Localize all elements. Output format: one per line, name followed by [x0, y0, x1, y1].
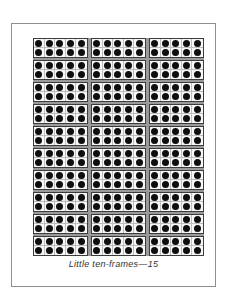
dot-icon	[114, 150, 121, 157]
ten-frame-cell	[161, 48, 172, 57]
dot-icon	[46, 216, 53, 223]
ten-frame-cell	[55, 224, 66, 233]
dot-icon	[56, 238, 63, 245]
dot-icon	[183, 159, 190, 166]
ten-frame-cell	[124, 39, 135, 48]
ten-frame-cell	[55, 180, 66, 189]
ten-frame-cell	[192, 180, 203, 189]
ten-frame-cell	[45, 105, 56, 114]
dot-icon	[78, 181, 85, 188]
ten-frame-cell	[34, 149, 45, 158]
dot-icon	[56, 194, 63, 201]
dot-icon	[67, 247, 74, 254]
dot-icon	[136, 181, 143, 188]
ten-frame-cell	[134, 70, 145, 79]
ten-frame-cell	[192, 114, 203, 123]
ten-frame-cell	[92, 202, 103, 211]
dot-icon	[172, 93, 179, 100]
dot-icon	[93, 84, 100, 91]
dot-icon	[35, 106, 42, 113]
dot-icon	[56, 203, 63, 210]
ten-frame-cell	[34, 136, 45, 145]
dot-icon	[194, 203, 201, 210]
ten-frame-cell	[150, 127, 161, 136]
dot-icon	[151, 159, 158, 166]
dot-icon	[125, 84, 132, 91]
dot-icon	[78, 115, 85, 122]
ten-frame-cell	[76, 48, 87, 57]
ten-frame-cell	[45, 193, 56, 202]
ten-frame-cell	[161, 105, 172, 114]
ten-frame-cell	[192, 70, 203, 79]
ten-frame-cell	[124, 92, 135, 101]
ten-frame-cell	[34, 193, 45, 202]
dot-icon	[114, 84, 121, 91]
ten-frame	[91, 38, 146, 58]
dot-icon	[35, 137, 42, 144]
dot-icon	[194, 106, 201, 113]
dot-icon	[194, 62, 201, 69]
dot-icon	[104, 247, 111, 254]
ten-frame	[33, 214, 88, 234]
ten-frame	[91, 236, 146, 256]
dot-icon	[56, 181, 63, 188]
dot-icon	[104, 225, 111, 232]
ten-frame-cell	[161, 61, 172, 70]
ten-frame	[91, 148, 146, 168]
ten-frame-cell	[171, 149, 182, 158]
ten-frame-cell	[124, 70, 135, 79]
dot-icon	[104, 106, 111, 113]
ten-frame-cell	[55, 149, 66, 158]
ten-frame-cell	[45, 92, 56, 101]
dot-icon	[194, 159, 201, 166]
dot-icon	[67, 216, 74, 223]
ten-frame-cell	[55, 105, 66, 114]
dot-icon	[125, 247, 132, 254]
ten-frame-cell	[192, 105, 203, 114]
dot-icon	[93, 203, 100, 210]
ten-frame-cell	[34, 246, 45, 255]
ten-frame-cell	[150, 149, 161, 158]
ten-frame-cell	[161, 158, 172, 167]
ten-frame-cell	[45, 171, 56, 180]
dot-icon	[93, 137, 100, 144]
ten-frame-cell	[76, 39, 87, 48]
dot-icon	[67, 106, 74, 113]
dot-icon	[104, 194, 111, 201]
dot-icon	[35, 49, 42, 56]
ten-frame-cell	[55, 136, 66, 145]
ten-frame-cell	[92, 114, 103, 123]
ten-frame-cell	[182, 61, 193, 70]
dot-icon	[162, 150, 169, 157]
dot-icon	[183, 62, 190, 69]
ten-frame-cell	[150, 105, 161, 114]
ten-frame-cell	[192, 127, 203, 136]
dot-icon	[56, 84, 63, 91]
ten-frame-cell	[124, 136, 135, 145]
dot-icon	[93, 172, 100, 179]
ten-frame-cell	[66, 48, 77, 57]
ten-frame-cell	[45, 237, 56, 246]
caption: Little ten-frames—15	[12, 259, 215, 269]
dot-icon	[35, 128, 42, 135]
dot-icon	[172, 159, 179, 166]
ten-frame-cell	[134, 180, 145, 189]
ten-frame-cell	[45, 202, 56, 211]
ten-frame-cell	[55, 70, 66, 79]
dot-icon	[194, 238, 201, 245]
ten-frame-cell	[150, 215, 161, 224]
ten-frame-cell	[182, 70, 193, 79]
ten-frame-cell	[55, 171, 66, 180]
ten-frame-cell	[76, 224, 87, 233]
ten-frame-cell	[124, 105, 135, 114]
dot-icon	[162, 128, 169, 135]
ten-frame-cell	[161, 70, 172, 79]
ten-frame-cell	[161, 149, 172, 158]
dot-icon	[114, 137, 121, 144]
ten-frame-cell	[182, 202, 193, 211]
dot-icon	[136, 225, 143, 232]
dot-icon	[35, 181, 42, 188]
dot-icon	[136, 194, 143, 201]
ten-frame-cell	[66, 193, 77, 202]
ten-frame-cell	[161, 136, 172, 145]
